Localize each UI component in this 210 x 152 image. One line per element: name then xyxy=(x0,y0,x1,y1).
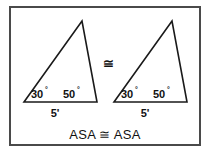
left-triangle-base-label: 5' xyxy=(51,107,60,119)
left-triangle-angle-right-degree-icon: ° xyxy=(77,86,80,93)
congruence-symbol-icon: ≅ xyxy=(103,56,114,71)
right-triangle-angle-right-degree-icon: ° xyxy=(167,86,170,93)
right-triangle-angle-left-degree-icon: ° xyxy=(135,86,138,93)
left-triangle-angle-left-value: 30 xyxy=(31,88,43,100)
left-triangle-angle-left-degree-icon: ° xyxy=(45,86,48,93)
figure-caption: ASA ≅ ASA xyxy=(69,127,141,142)
figure-root: 30 ° 50 ° 5' ≅ 30 ° 50 ° 5' ASA ≅ ASA xyxy=(0,0,210,152)
left-triangle-group: 30 ° 50 ° 5' xyxy=(24,21,97,119)
right-triangle-base-label: 5' xyxy=(141,107,150,119)
left-triangle-angle-right-value: 50 xyxy=(63,88,75,100)
right-triangle-angle-right-value: 50 xyxy=(153,88,165,100)
right-triangle-angle-left-value: 30 xyxy=(121,88,133,100)
diagram-canvas: 30 ° 50 ° 5' ≅ 30 ° 50 ° 5' ASA ≅ ASA xyxy=(0,0,210,152)
right-triangle-group: 30 ° 50 ° 5' xyxy=(114,21,187,119)
